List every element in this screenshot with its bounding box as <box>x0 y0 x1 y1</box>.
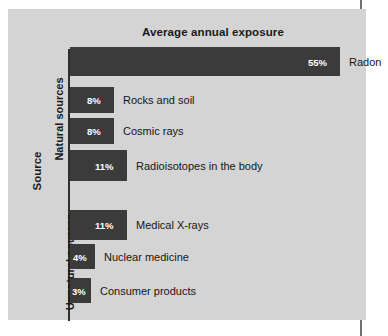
chart-figure: Average annual exposure Source Natural s… <box>0 0 388 336</box>
bar-value-label: 55% <box>308 56 327 67</box>
bar-row: 8% Rocks and soil <box>70 87 360 113</box>
bar-category-label: Radon <box>349 56 381 68</box>
bar-row: 11% Medical X-rays <box>70 210 360 240</box>
group-label-natural-sources: Natural sources <box>53 59 65 179</box>
bar-value-label: 3% <box>72 285 86 296</box>
chart-panel: Average annual exposure Source Natural s… <box>8 9 366 320</box>
bar-row: 4% Nuclear medicine <box>70 244 360 269</box>
bar-row: 55% Radon <box>70 47 360 76</box>
bar-rect <box>70 47 340 76</box>
bar-value-label: 8% <box>87 95 101 106</box>
chart-title: Average annual exposure <box>70 26 356 38</box>
bar-value-label: 11% <box>95 160 114 171</box>
bar-category-label: Cosmic rays <box>123 125 184 137</box>
axis-title-source: Source <box>31 126 43 216</box>
bar-row: 8% Cosmic rays <box>70 118 360 144</box>
bar-value-label: 8% <box>87 126 101 137</box>
bar-category-label: Medical X-rays <box>136 219 209 231</box>
page-edge-rule-bottom <box>360 320 362 336</box>
bar-category-label: Rocks and soil <box>123 94 195 106</box>
bar-row: 3% Consumer products <box>70 278 360 303</box>
bar-category-label: Nuclear medicine <box>104 251 189 263</box>
bar-row: 11% Radioisotopes in the body <box>70 150 360 181</box>
bar-category-label: Consumer products <box>100 285 196 297</box>
bar-value-label: 4% <box>73 251 87 262</box>
bar-value-label: 11% <box>95 220 114 231</box>
bar-category-label: Radioisotopes in the body <box>136 160 263 172</box>
